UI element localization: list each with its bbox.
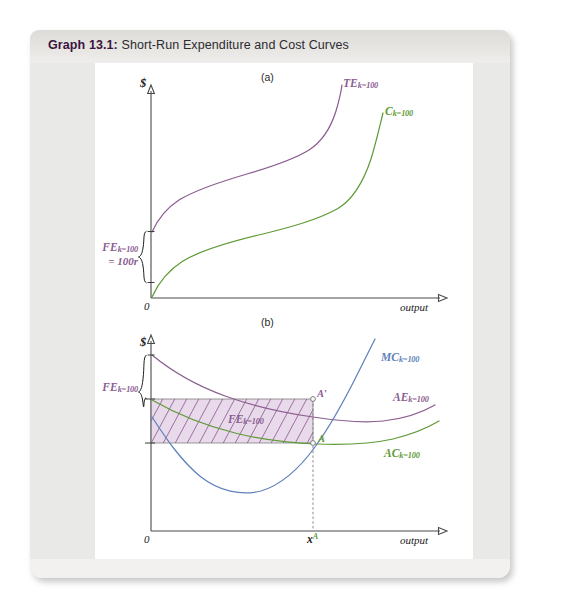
panel-a-fe-brace [139,231,147,283]
panel-a-origin-label: 0 [144,300,150,312]
panel-b-mc-label: MCk=100 [381,351,419,365]
panel-a-y-axis-label: $ [140,76,146,91]
panel-b-point-a-prime-dot [311,397,316,402]
panel-b-point-a-label: A [318,433,325,444]
plot-sheet: (a) $ 0 output TEk=100 Ck=10 [95,63,473,559]
figure-number: Graph 13.1: [48,38,118,52]
panel-a-te-label: TEk=100 [343,77,378,91]
panel-b-fe-brace [139,355,147,407]
panel-b-x-axis-label: output [400,534,428,546]
panel-b-ae-label: AEk=100 [393,391,429,405]
panel-b-origin-label: 0 [144,533,150,545]
panel-a-c-label: Ck=100 [385,105,413,119]
panel-a-te-curve [152,85,342,232]
panel-b-point-a-prime-label: A′ [317,388,327,399]
panel-b-ac-label: ACk=100 [384,447,420,461]
panel-a-ac-like-curve [152,113,383,297]
panel-b-fe-region-label: FEk=100 [228,413,264,427]
panel-b-plot [95,333,473,559]
panel-b-y-axis-label: $ [140,335,146,350]
panel-b-tag: (b) [261,316,274,328]
figure-title: Graph 13.1: Short-Run Expenditure and Co… [48,38,349,52]
figure-header: Graph 13.1: Short-Run Expenditure and Co… [30,30,510,63]
panel-b-x-tick-label: xA [307,533,318,545]
figure-card: Graph 13.1: Short-Run Expenditure and Co… [30,30,510,578]
panel-a-x-axis-label: output [400,301,428,313]
card-footer-strip [30,559,510,578]
panel-a-plot [95,63,473,313]
panel-b-point-a-dot [311,441,316,446]
panel-b-fe-brace-label: FEk=100 [93,381,138,395]
panel-a-fe-brace-label: FEk=100 = 100r [90,241,138,268]
figure-title-text: Short-Run Expenditure and Cost Curves [121,38,348,52]
